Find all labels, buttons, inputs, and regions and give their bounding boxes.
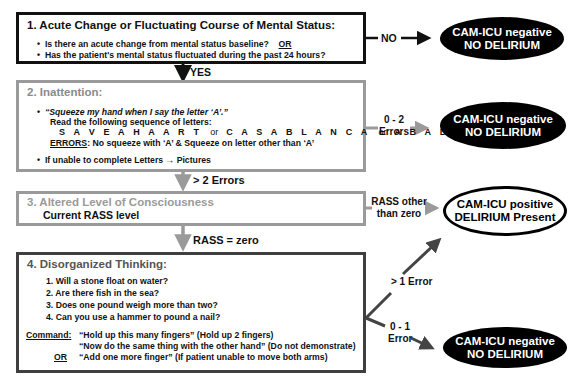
bullet-icon: •	[37, 107, 45, 117]
bullet-icon: •	[37, 39, 45, 49]
read-line: Read the following sequence of letters:	[50, 117, 212, 127]
question-3: 3. Does one pound weigh more than two?	[46, 300, 218, 310]
rass-zero-label: RASS = zero	[193, 234, 259, 246]
command-label: Command:	[26, 330, 71, 340]
acute-change-title: 1. Acute Change or Fluctuating Course of…	[27, 19, 335, 31]
gt1-error-label: > 1 Error	[391, 276, 432, 288]
fallback-line: • If unable to complete Letters → Pictur…	[37, 155, 211, 165]
bullet-icon: •	[37, 155, 45, 165]
outcome-negative-1: CAM-ICU negative NO DELIRIUM	[440, 17, 564, 60]
inattention-title: 2. Inattention:	[27, 86, 102, 98]
errors-0-2-label: 0 - 2 Errors	[379, 114, 409, 138]
errors-label: ERRORS	[50, 138, 87, 148]
command-1: “Hold up this many fingers” (Hold up 2 f…	[79, 330, 274, 340]
disorganized-thinking-title: 4. Disorganized Thinking:	[27, 258, 167, 270]
bullet-icon: •	[37, 50, 45, 60]
yes-label: YES	[190, 66, 211, 78]
errors-0-1-label: 0 - 1 Error	[388, 321, 412, 345]
sequence-1: S A V E A H A A R T	[59, 127, 202, 137]
command-or-label: OR	[54, 352, 67, 362]
acute-change-box: 1. Acute Change or Fluctuating Course of…	[16, 12, 366, 64]
inattention-instruction: • “Squeeze my hand when I say the letter…	[37, 107, 228, 117]
outcome-positive: CAM-ICU positive DELIRIUM Present	[443, 186, 567, 236]
rass-other-label: RASS other than zero	[371, 196, 427, 220]
question-1: 1. Will a stone float on water?	[46, 276, 168, 286]
question-2: 2. Are there fish in the sea?	[46, 288, 159, 298]
no-label: NO	[381, 32, 397, 44]
acute-change-item-2: • Has the patient's mental status fluctu…	[37, 50, 325, 60]
sequence-2: C A S A B L A N C A	[226, 127, 370, 137]
inattention-box: 2. Inattention: • “Squeeze my hand when …	[16, 80, 366, 172]
outcome-negative-3: CAM-ICU negative NO DELIRIUM	[443, 327, 567, 368]
disorganized-thinking-box: 4. Disorganized Thinking: 1. Will a ston…	[16, 252, 366, 373]
outcome-negative-2: CAM-ICU negative NO DELIRIUM	[440, 102, 566, 149]
gt2-errors-label: > 2 Errors	[193, 174, 245, 186]
or-label: OR	[279, 39, 292, 49]
rass-level-label: Current RASS level	[43, 209, 139, 221]
errors-line: ERRORS: No squeeze with ‘A’ & Squeeze on…	[50, 138, 314, 148]
command-2: “Now do the same thing with the other ha…	[79, 341, 356, 351]
consciousness-title: 3. Altered Level of Consciousness	[27, 196, 214, 208]
acute-change-item-1: • Is there an acute change from mental s…	[37, 39, 292, 49]
consciousness-box: 3. Altered Level of Consciousness Curren…	[16, 191, 366, 226]
question-4: 4. Can you use a hammer to pound a nail?	[46, 312, 220, 322]
command-3: “Add one more finger” (If patient unable…	[79, 352, 328, 362]
